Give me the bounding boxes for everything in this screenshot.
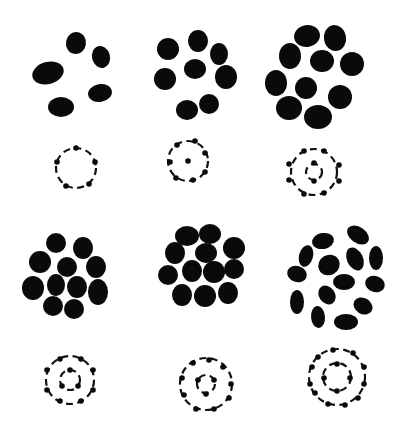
blob (46, 233, 66, 253)
electron-dot (192, 138, 198, 144)
figure-canvas (0, 0, 402, 437)
electron-dot (211, 377, 217, 383)
electron-dot (312, 390, 318, 396)
electron-dot (321, 375, 327, 381)
electron-dot (90, 367, 96, 373)
electron-dot (63, 183, 69, 189)
blob (304, 105, 332, 129)
electron-dot (286, 161, 292, 167)
blob (218, 282, 238, 304)
electron-dot (321, 148, 327, 154)
blob (86, 256, 106, 278)
blob (182, 260, 202, 282)
blob (57, 257, 77, 277)
electron-dot (220, 364, 226, 370)
electron-dot (202, 169, 208, 175)
electron-dot (355, 395, 361, 401)
blob (203, 261, 225, 283)
electron-dot (78, 398, 84, 404)
blob (195, 243, 217, 263)
blob (172, 284, 192, 306)
electron-dot (336, 162, 342, 168)
electron-dot (44, 367, 50, 373)
blob (194, 285, 216, 307)
blob (340, 52, 364, 76)
electron-dot (286, 177, 292, 183)
blob (276, 96, 302, 120)
electron-dot (301, 191, 307, 197)
electron-dot (361, 381, 367, 387)
electron-dot (193, 406, 199, 412)
electron-dot (57, 356, 63, 362)
electron-dot (190, 177, 196, 183)
electron-dot (350, 350, 356, 356)
blob (184, 59, 206, 79)
blob (154, 68, 176, 90)
blob (310, 50, 334, 72)
blob (88, 279, 108, 305)
electron-dot (75, 383, 81, 389)
blob (158, 265, 178, 285)
blob (334, 314, 358, 330)
electron-dot (78, 356, 84, 362)
electron-dot (211, 406, 217, 412)
electron-dot (73, 145, 79, 151)
electron-dot (325, 401, 331, 407)
electron-dot (311, 178, 317, 184)
blob (22, 276, 44, 300)
blob (224, 259, 244, 279)
electron-dot (203, 391, 209, 397)
blob (47, 274, 65, 296)
electron-dot (311, 160, 317, 166)
electron-dot (336, 178, 342, 184)
electron-dot (347, 375, 353, 381)
electron-dot (334, 361, 340, 367)
electron-dot (190, 360, 196, 366)
electron-dot (90, 387, 96, 393)
blob (48, 97, 74, 117)
blob (199, 224, 221, 244)
electron-dot (181, 392, 187, 398)
blob (328, 85, 352, 109)
electron-dot (174, 142, 180, 148)
blob (157, 38, 179, 60)
blob (279, 43, 301, 69)
center-dot (185, 158, 191, 164)
electron-dot (59, 383, 65, 389)
blob (199, 94, 219, 114)
electron-dot (226, 395, 232, 401)
electron-dot (206, 357, 212, 363)
electron-dot (307, 381, 313, 387)
electron-dot (334, 388, 340, 394)
electron-dot (315, 354, 321, 360)
electron-dot (195, 377, 201, 383)
electron-dot (301, 148, 307, 154)
electron-dot (361, 364, 367, 370)
electron-dot (342, 402, 348, 408)
blob (67, 276, 87, 298)
blob (165, 242, 185, 264)
blob (188, 30, 208, 52)
electron-dot (86, 181, 92, 187)
blob (64, 299, 84, 319)
electron-dot (179, 375, 185, 381)
blob (290, 290, 304, 314)
blob (210, 43, 228, 65)
electron-dot (57, 398, 63, 404)
blob (176, 100, 198, 120)
blob (333, 274, 355, 290)
blob (295, 77, 317, 99)
blob (29, 251, 51, 273)
blob (369, 246, 383, 270)
electron-dot (330, 347, 336, 353)
electron-dot (92, 159, 98, 165)
electron-dot (54, 159, 60, 165)
electron-dot (67, 367, 73, 373)
electron-dot (44, 387, 50, 393)
blob (215, 65, 237, 89)
electron-dot (173, 175, 179, 181)
electron-dot (309, 364, 315, 370)
electron-dot (228, 381, 234, 387)
electron-dot (321, 190, 327, 196)
blob (73, 237, 93, 259)
